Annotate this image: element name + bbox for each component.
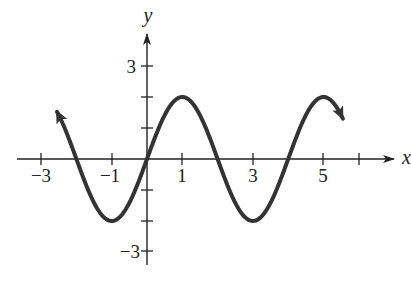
y-tick-label: −3 [120, 241, 140, 262]
y-axis-label: y [142, 4, 153, 27]
y-tick-label: 3 [127, 56, 137, 77]
curve-start-arrow-icon [51, 107, 68, 124]
x-tick-label: −1 [100, 165, 120, 186]
x-axis-label: x [401, 146, 411, 168]
x-tick-label: 5 [318, 165, 328, 186]
sine-graph: −3 −1 1 3 5 3 −3 y x [0, 0, 411, 283]
x-tick-label: 1 [177, 165, 187, 186]
x-tick-label: −3 [31, 165, 51, 186]
x-tick-label: 3 [248, 165, 258, 186]
